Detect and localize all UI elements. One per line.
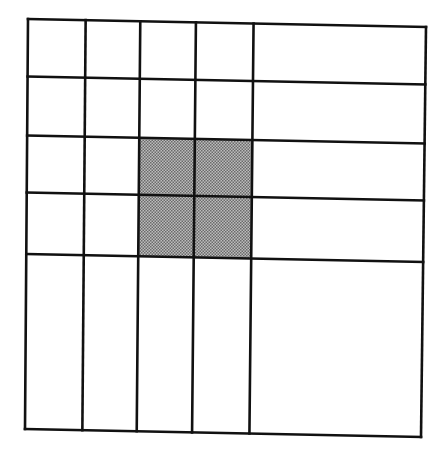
column-line (137, 21, 141, 431)
shaded-cell (138, 195, 194, 258)
shaded-cell (139, 138, 195, 196)
row-line (28, 77, 426, 85)
grid-diagram (0, 0, 444, 454)
border-line (25, 19, 28, 429)
border-line (28, 19, 426, 27)
column-line (82, 20, 85, 430)
shaded-cell (194, 196, 252, 259)
border-line (421, 27, 426, 437)
shaded-cell (194, 139, 252, 197)
border-line (25, 429, 421, 437)
